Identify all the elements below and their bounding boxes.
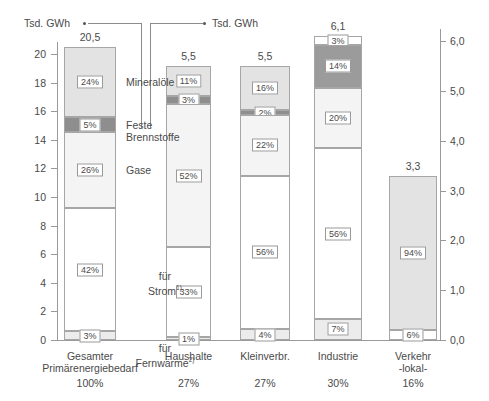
left-axis-tick	[51, 283, 57, 284]
bar-total-label: 5,5	[240, 51, 290, 62]
segment-percent-label: 42%	[77, 263, 103, 276]
segment-percent-label: 6%	[402, 329, 423, 342]
segment-percent-label: 94%	[400, 246, 426, 259]
right-axis-tick-label: 6,0	[450, 36, 484, 46]
left-axis-tick-label: 14	[18, 135, 46, 145]
category-label: Verkehr -lokal-	[343, 350, 483, 374]
footnote-marker-1: 1)	[176, 284, 182, 291]
bar-1[interactable]: 24%5%26%42%3%	[64, 47, 116, 340]
left-axis-tick	[51, 140, 57, 141]
right-axis-tick	[440, 240, 446, 241]
left-axis-tick	[51, 254, 57, 255]
left-axis-tick-label: 6	[18, 249, 46, 259]
segment-percent-label: 52%	[175, 169, 201, 182]
segment-percent-label: 16%	[252, 81, 278, 94]
right-axis-tick	[440, 191, 446, 192]
bar-total-label: 5,5	[166, 51, 211, 62]
legend-label-mineraloele: Mineralöle	[126, 76, 174, 88]
right-unit-dot	[203, 22, 206, 25]
right-axis-tick-label: 0,0	[450, 335, 484, 345]
right-axis-unit-label: Tsd. GWh	[212, 18, 258, 29]
left-axis-tick-label: 0	[18, 335, 46, 345]
axis-baseline	[57, 340, 440, 341]
segment-percent-label: 56%	[325, 227, 351, 240]
left-axis-tick-label: 16	[18, 106, 46, 116]
right-axis-tick	[440, 141, 446, 142]
segment-percent-label: 5%	[79, 118, 100, 131]
bar-5[interactable]: 94%6%	[389, 176, 437, 340]
footnote-marker-2: 2)	[189, 356, 195, 363]
category-share-label: 27%	[149, 377, 229, 389]
right-axis-tick-label: 3,0	[450, 186, 484, 196]
bar-4[interactable]: 3%14%20%56%7%	[314, 36, 362, 340]
left-axis-tick	[51, 83, 57, 84]
bar-3[interactable]: 16%2%22%56%4%	[240, 66, 290, 340]
left-axis-tick-label: 12	[18, 163, 46, 173]
right-axis-tick	[440, 41, 446, 42]
left-axis-tick	[51, 111, 57, 112]
segment-percent-label: 4%	[254, 328, 275, 341]
bar-2[interactable]: 11%3%52%33%1%	[166, 66, 211, 340]
right-unit-connector-horizontal	[150, 23, 203, 24]
left-axis-tick-label: 4	[18, 278, 46, 288]
category-share-label: 27%	[225, 377, 305, 389]
left-axis-tick	[51, 226, 57, 227]
left-axis-line	[57, 42, 58, 340]
left-axis-tick-label: 18	[18, 78, 46, 88]
segment-percent-label: 11%	[176, 74, 201, 87]
segment-percent-label: 14%	[325, 60, 351, 73]
left-axis-tick-label: 20	[18, 49, 46, 59]
legend-label-fuer-fernwaerme: für Fernwärme2)	[122, 330, 208, 369]
segment-percent-label: 26%	[77, 163, 103, 176]
right-axis-tick-label: 4,0	[450, 136, 484, 146]
legend-label-fuer-strom-text: für Strom	[148, 270, 176, 297]
right-axis-tick-label: 2,0	[450, 235, 484, 245]
right-axis-tick	[440, 340, 446, 341]
segment-percent-label: 24%	[77, 76, 103, 89]
legend-label-gase: Gase	[126, 164, 151, 176]
right-axis-tick	[440, 290, 446, 291]
category-share-label: 100%	[50, 377, 130, 389]
legend-label-fuer-fernwaerme-text: für Fernwärme	[136, 342, 189, 369]
category-share-label: 30%	[298, 377, 378, 389]
bar-total-label: 3,3	[389, 161, 437, 172]
left-axis-tick-label: 10	[18, 192, 46, 202]
right-axis-tick-label: 5,0	[450, 86, 484, 96]
left-unit-connector-horizontal	[88, 23, 142, 24]
left-unit-dot	[83, 22, 86, 25]
segment-percent-label: 3%	[79, 329, 100, 342]
segment-percent-label: 22%	[252, 139, 278, 152]
segment-percent-label: 56%	[252, 246, 278, 259]
left-axis-tick	[51, 168, 57, 169]
bar-total-label: 20,5	[64, 32, 116, 43]
right-axis-tick-label: 1,0	[450, 285, 484, 295]
right-axis-line	[440, 29, 441, 340]
left-axis-tick	[51, 311, 57, 312]
left-axis-tick	[51, 197, 57, 198]
right-axis-tick	[440, 91, 446, 92]
left-axis-tick-label: 8	[18, 221, 46, 231]
stacked-bar-chart: Tsd. GWh Tsd. GWh 20181614121086420 6,05…	[0, 0, 489, 401]
legend-label-fuer-strom: für Strom1)	[122, 258, 208, 297]
bar-total-label: 6,1	[314, 21, 362, 32]
segment-percent-label: 20%	[325, 112, 351, 125]
left-axis-unit-label: Tsd. GWh	[24, 18, 70, 29]
category-share-label: 16%	[373, 377, 453, 389]
legend-label-feste-brennstoffe: Feste Brennstoffe	[126, 119, 180, 143]
left-axis-tick	[51, 54, 57, 55]
left-axis-tick-label: 2	[18, 306, 46, 316]
segment-percent-label: 7%	[327, 323, 348, 336]
